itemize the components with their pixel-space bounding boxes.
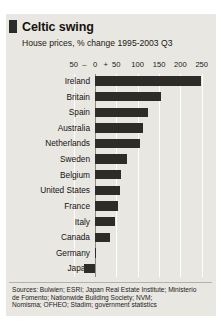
- bar-row: Japan: [9, 261, 214, 277]
- x-tick-label: 250: [195, 60, 208, 69]
- category-label: France: [64, 201, 90, 211]
- sources-note: Sources: Bulwien; ESRI; Japan Real Estat…: [12, 286, 212, 309]
- category-label: Germany: [56, 248, 90, 258]
- category-label: Italy: [75, 217, 90, 227]
- divider: [9, 282, 212, 283]
- sources-line-3: Nomisma; OFHEO; Stadim; government stati…: [12, 301, 212, 309]
- category-label: Sweden: [60, 154, 90, 164]
- bars-area: IrelandBritainSpainAustraliaNetherlandsS…: [9, 74, 214, 277]
- category-label: Ireland: [65, 76, 90, 86]
- bar-row: Germany: [9, 246, 214, 262]
- bar-row: Canada: [9, 230, 214, 246]
- bar: [95, 92, 161, 101]
- top-margin: [0, 0, 221, 14]
- bar: [95, 139, 140, 148]
- category-label: Spain: [69, 107, 90, 117]
- x-tick-label: 200: [174, 60, 187, 69]
- x-tick-label: 150: [153, 60, 166, 69]
- bar: [95, 248, 96, 257]
- bar: [95, 154, 127, 163]
- bar-row: France: [9, 199, 214, 215]
- bar-row: Italy: [9, 215, 214, 231]
- bar-row: Australia: [9, 121, 214, 137]
- bar: [95, 108, 148, 117]
- category-label: Canada: [61, 232, 90, 242]
- left-margin: [0, 0, 6, 327]
- bar: [95, 76, 201, 85]
- x-tick-label: –: [82, 60, 86, 69]
- x-tick-label: +: [103, 60, 107, 69]
- bar: [95, 233, 110, 242]
- category-label: Australia: [58, 123, 90, 133]
- bar: [95, 201, 118, 210]
- bar-row: Belgium: [9, 168, 214, 184]
- brand-tab-icon: [9, 20, 17, 33]
- x-tick-label: 50: [112, 60, 120, 69]
- x-tick-label: 0: [93, 60, 97, 69]
- bar-row: Netherlands: [9, 136, 214, 152]
- sources-line-1: Sources: Bulwien; ESRI; Japan Real Estat…: [12, 286, 212, 294]
- x-tick-label: 100: [131, 60, 144, 69]
- category-label: Britain: [66, 92, 90, 102]
- category-label: Netherlands: [45, 138, 90, 148]
- bar: [95, 186, 120, 195]
- bar-row: Sweden: [9, 152, 214, 168]
- bar: [95, 123, 143, 132]
- right-margin: [216, 0, 221, 327]
- bar: [84, 264, 95, 273]
- x-axis-ticks: 50–0+50100150200250: [9, 60, 214, 73]
- category-label: United States: [40, 185, 90, 195]
- category-label: Belgium: [60, 170, 90, 180]
- bar: [95, 217, 115, 226]
- chart-title: Celtic swing: [22, 20, 94, 34]
- bar-row: Spain: [9, 105, 214, 121]
- bar-row: Ireland: [9, 74, 214, 90]
- chart-subtitle: House prices, % change 1995-2003 Q3: [22, 38, 173, 48]
- bar: [95, 170, 121, 179]
- sources-line-2: de Fomento; Nationwide Building Society;…: [12, 294, 212, 302]
- chart-figure: Celtic swing House prices, % change 1995…: [0, 0, 221, 327]
- x-tick-label: 50: [69, 60, 77, 69]
- bar-row: Britain: [9, 90, 214, 106]
- bottom-margin: [0, 316, 221, 327]
- bar-row: United States: [9, 183, 214, 199]
- plot-area: 50–0+50100150200250 IrelandBritainSpainA…: [9, 60, 214, 280]
